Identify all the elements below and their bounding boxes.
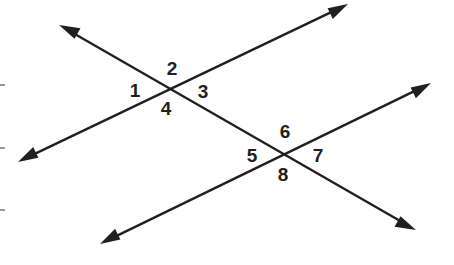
angle-label-6: 6 (280, 121, 291, 142)
angle-label-4: 4 (161, 98, 172, 119)
transversal-diagram: 1 2 3 4 5 6 7 8 (0, 0, 454, 265)
angle-label-2: 2 (167, 58, 178, 79)
background (0, 0, 454, 265)
angle-label-7: 7 (313, 145, 324, 166)
angle-label-5: 5 (247, 145, 258, 166)
angle-label-1: 1 (130, 80, 141, 101)
angle-label-3: 3 (198, 81, 209, 102)
angle-label-8: 8 (278, 164, 289, 185)
